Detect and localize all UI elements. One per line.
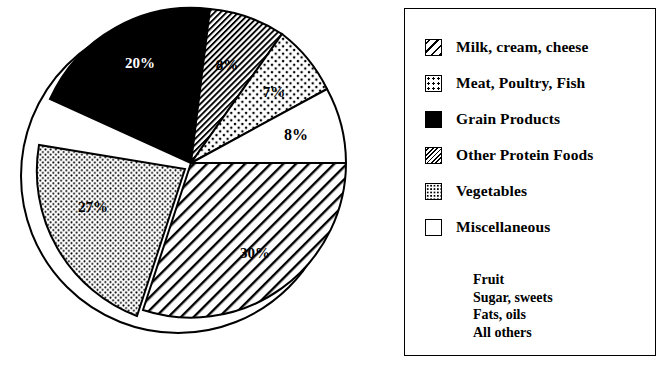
pie-chart-svg: 30% 27% 20% 8% 7% 8% — [0, 0, 392, 365]
pie-label-27-percent: 27% — [78, 199, 108, 215]
pie-label-8-percent-misc: 8% — [284, 126, 308, 143]
miscellaneous-subitem-fats-oils: Fats, oils — [473, 306, 553, 324]
legend-label-miscellaneous: Miscellaneous — [456, 218, 550, 236]
diagonal-hatch-wide-swatch-icon — [425, 39, 442, 56]
miscellaneous-subitem-sugar-sweets: Sugar, sweets — [473, 289, 553, 307]
pie-chart-panel: 30% 27% 20% 8% 7% 8% — [0, 0, 392, 365]
legend-item-grain-products[interactable]: Grain Products — [425, 101, 655, 137]
legend-box: Milk, cream, cheese Meat, Poultry, Fish … — [404, 8, 656, 356]
legend-label-milk-cream-cheese: Milk, cream, cheese — [456, 38, 588, 56]
pie-label-20-percent: 20% — [125, 55, 155, 71]
legend-item-meat-poultry-fish[interactable]: Meat, Poultry, Fish — [425, 65, 655, 101]
legend-item-other-protein-foods[interactable]: Other Protein Foods — [425, 137, 655, 173]
legend-label-other-protein-foods: Other Protein Foods — [456, 146, 593, 164]
pie-slice-grain-products[interactable] — [50, 8, 210, 163]
pie-label-8-percent-protein: 8% — [216, 57, 239, 73]
miscellaneous-subitem-all-others: All others — [473, 324, 553, 342]
legend-label-meat-poultry-fish: Meat, Poultry, Fish — [456, 74, 585, 92]
legend-label-vegetables: Vegetables — [456, 182, 527, 200]
pie-label-7-percent: 7% — [263, 84, 286, 100]
solid-black-swatch-icon — [425, 111, 442, 128]
dots-medium-swatch-icon — [425, 75, 442, 92]
legend-item-milk-cream-cheese[interactable]: Milk, cream, cheese — [425, 29, 655, 65]
pie-label-30-percent: 30% — [240, 245, 270, 261]
legend-label-grain-products: Grain Products — [456, 110, 560, 128]
miscellaneous-subitem-list: Fruit Sugar, sweets Fats, oils All other… — [473, 271, 553, 341]
legend-item-list: Milk, cream, cheese Meat, Poultry, Fish … — [425, 29, 655, 245]
miscellaneous-subitem-fruit: Fruit — [473, 271, 553, 289]
dots-fine-swatch-icon — [425, 183, 442, 200]
diagonal-hatch-dense-swatch-icon — [425, 147, 442, 164]
legend-item-vegetables[interactable]: Vegetables — [425, 173, 655, 209]
empty-white-swatch-icon — [425, 219, 442, 236]
chart-page: 30% 27% 20% 8% 7% 8% Milk, cream, cheese… — [0, 0, 664, 365]
legend-item-miscellaneous[interactable]: Miscellaneous — [425, 209, 655, 245]
